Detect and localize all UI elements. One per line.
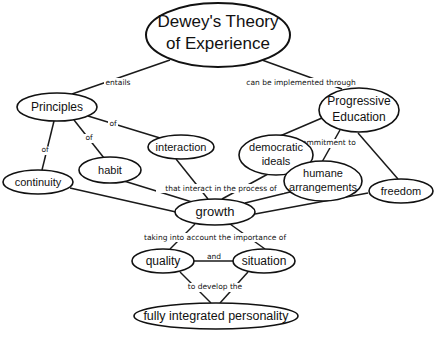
node-interaction: interaction <box>148 135 214 159</box>
edge-dewey-principles <box>72 60 170 94</box>
link-label-implemented: can be implemented through <box>246 78 356 87</box>
node-habit: habit <box>79 157 141 183</box>
node-democratic-line1: democratic <box>249 141 303 153</box>
node-freedom-label: freedom <box>381 185 421 197</box>
node-freedom: freedom <box>369 179 433 203</box>
node-situation-label: situation <box>242 254 287 268</box>
link-label-of-interaction: of <box>109 119 117 128</box>
edge-progressive-democratic <box>280 118 322 136</box>
edge-progressive-freedom <box>358 133 398 179</box>
node-quality-label: quality <box>146 254 181 268</box>
node-continuity-label: continuity <box>15 176 62 188</box>
node-growth-label: growth <box>195 204 234 219</box>
link-label-importance: taking into account the importance of <box>144 233 286 242</box>
node-principles-label: Principles <box>31 100 83 114</box>
node-progressive-line1: Progressive <box>327 94 391 108</box>
node-dewey-line1: Dewey's Theory <box>157 12 279 31</box>
node-habit-label: habit <box>98 164 122 176</box>
node-quality: quality <box>132 249 194 273</box>
node-principles: Principles <box>17 93 97 121</box>
node-democratic-line2: ideals <box>262 155 291 167</box>
node-personality-label: fully integrated personality <box>143 309 289 323</box>
link-label-entails: entails <box>106 78 131 87</box>
node-interaction-label: interaction <box>156 141 207 153</box>
node-dewey-line2: of Experience <box>166 34 270 53</box>
link-label-and: and <box>207 252 221 261</box>
node-dewey-theory: Dewey's Theory of Experience <box>146 3 290 67</box>
edge-principles-interaction <box>88 116 160 138</box>
node-progressive-education: Progressive Education <box>319 88 399 132</box>
node-growth: growth <box>175 199 255 225</box>
concept-map: entails can be implemented through of of… <box>0 0 436 339</box>
node-fully-integrated-personality: fully integrated personality <box>134 303 298 329</box>
node-continuity: continuity <box>3 170 73 194</box>
link-label-of-habit: of <box>85 133 93 142</box>
edge-humane-growth <box>245 192 290 203</box>
link-label-of-continuity: of <box>41 145 49 154</box>
link-label-develop: to develop the <box>188 282 243 291</box>
node-humane-line1: humane <box>303 167 343 179</box>
node-progressive-line2: Education <box>332 110 385 124</box>
node-situation: situation <box>233 249 295 273</box>
link-label-interact: that interact in the process of <box>165 184 277 193</box>
node-humane-line2: arrangements <box>289 181 357 193</box>
node-humane-arrangements: humane arrangements <box>284 161 362 201</box>
